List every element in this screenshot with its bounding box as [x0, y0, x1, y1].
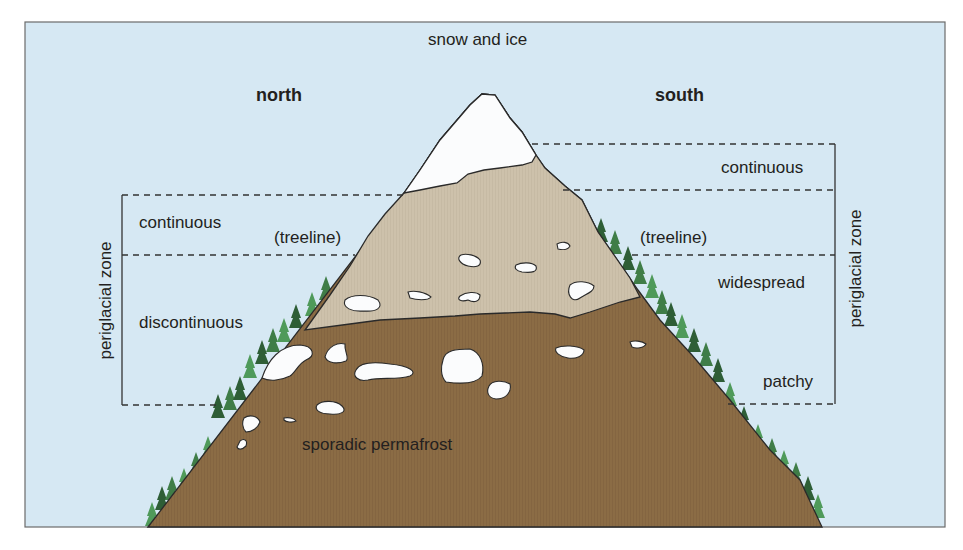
permafrost-mountain-diagram: snow and ice north south continuous disc… [0, 0, 963, 550]
sporadic-permafrost-label: sporadic permafrost [302, 436, 452, 453]
south-label: south [655, 86, 704, 104]
north-continuous-label: continuous [139, 214, 221, 231]
north-label: north [256, 86, 302, 104]
diagram-canvas [0, 0, 963, 550]
north-periglacial-zone-label: periglacial zone [97, 236, 114, 366]
south-widespread-label: widespread [718, 274, 805, 291]
south-continuous-label: continuous [721, 159, 803, 176]
snow-and-ice-label: snow and ice [428, 31, 527, 48]
south-patchy-label: patchy [763, 373, 813, 390]
south-periglacial-zone-label: periglacial zone [847, 204, 864, 334]
north-treeline-label: (treeline) [274, 229, 341, 246]
north-discontinuous-label: discontinuous [139, 314, 243, 331]
south-treeline-label: (treeline) [640, 229, 707, 246]
